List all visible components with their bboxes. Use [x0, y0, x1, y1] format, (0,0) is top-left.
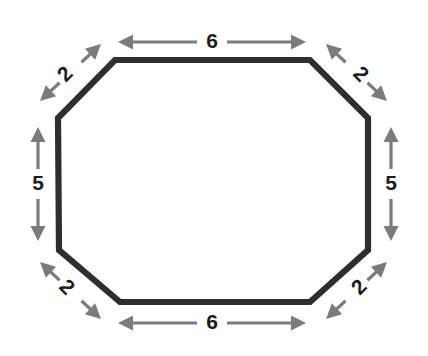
octagon-figure-container: 62255226 — [0, 0, 428, 356]
octagon-diagram: 62255226 — [0, 0, 428, 356]
dimension-label-bottom-side: 6 — [206, 310, 218, 333]
dimension-label-left-side: 5 — [32, 171, 44, 194]
dimension-label-top-side: 6 — [206, 29, 218, 52]
octagon-shape — [58, 60, 368, 302]
dimension-label-right-side: 5 — [385, 171, 397, 194]
